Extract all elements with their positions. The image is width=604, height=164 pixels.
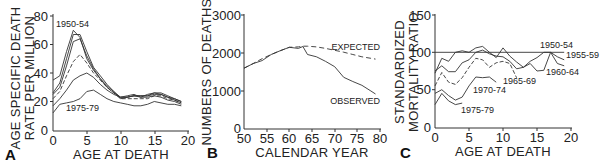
x-tick-label: 10 — [114, 133, 128, 148]
panel-a-x-ticks: 0 5 10 15 20 — [49, 131, 195, 148]
x-tick-label: 55 — [260, 131, 274, 146]
panel-c-lines — [435, 46, 564, 104]
x-tick-label: 15 — [148, 133, 162, 148]
x-tick-label: 5 — [465, 130, 472, 145]
annotation-1970-74: 1970-74 — [473, 85, 506, 95]
y-tick-label: 3000 — [212, 8, 241, 23]
annotation-1965-69: 1965-69 — [503, 76, 536, 86]
series-line — [53, 73, 181, 106]
x-tick-label: 75 — [350, 131, 364, 146]
annotation-1975-79: 1975-79 — [66, 103, 99, 113]
y-tick-label: 2000 — [212, 46, 241, 61]
series-line — [435, 46, 564, 73]
annotation-1955-59: 1955-59 — [566, 50, 599, 60]
x-tick-label: 20 — [564, 130, 578, 145]
panel-b: 0 1000 2000 3000 50 55 60 65 70 75 80 CA… — [199, 0, 387, 161]
panel-c-x-ticks: 0 5 10 15 20 — [431, 128, 578, 145]
x-tick-label: 65 — [305, 131, 319, 146]
panel-c-label: C — [400, 144, 411, 161]
y-tick-label: 0 — [424, 120, 431, 135]
x-tick-label: 70 — [328, 131, 342, 146]
panel-a-y-label-line1: AGE SPECIFIC DEATH — [8, 6, 23, 149]
panel-a-lines — [53, 30, 181, 113]
x-tick-label: 60 — [282, 131, 296, 146]
annotation-expected: EXPECTED — [331, 42, 380, 52]
x-tick-label: 15 — [530, 130, 544, 145]
x-tick-label: 0 — [49, 133, 56, 148]
panel-a-x-label: AGE AT DEATH — [73, 147, 169, 162]
panel-c: 0 50 100 150 0 5 10 15 20 AGE AT DEATH S… — [392, 8, 599, 161]
panel-a-y-label-line2: RATE PER MILLION — [22, 16, 37, 140]
x-tick-label: 20 — [181, 133, 195, 148]
panel-a: 0 20 40 60 80 0 5 10 15 20 AGE AT DEATH … — [5, 6, 195, 163]
annotation-1950-54: 1950-54 — [56, 19, 89, 29]
panel-b-x-ticks: 50 55 60 65 70 75 80 — [237, 129, 387, 146]
panel-b-label: B — [207, 144, 218, 161]
panel-b-x-label: CALENDAR YEAR — [255, 145, 368, 160]
panel-b-lines — [244, 46, 376, 94]
y-tick-label: 1000 — [212, 84, 241, 99]
panel-c-y-label-line2: MORTALITY RATIO — [406, 12, 421, 132]
x-tick-label: 0 — [431, 130, 438, 145]
panel-c-y-label-line1: STANDARDIZED — [392, 20, 407, 124]
annotation-1950-54: 1950-54 — [540, 40, 573, 50]
x-tick-label: 50 — [237, 131, 251, 146]
series-line — [53, 30, 181, 101]
panel-c-x-label: AGE AT DEATH — [455, 144, 551, 159]
panel-b-y-label: NUMBERS OF DEATHS — [199, 0, 214, 146]
figure: 0 20 40 60 80 0 5 10 15 20 AGE AT DEATH … — [0, 0, 604, 164]
annotation-1960-64: 1960-64 — [546, 67, 579, 77]
x-tick-label: 80 — [373, 131, 387, 146]
annotation-observed: OBSERVED — [330, 96, 380, 106]
x-tick-label: 5 — [83, 133, 90, 148]
x-tick-label: 10 — [496, 130, 510, 145]
panel-a-label: A — [5, 146, 16, 163]
panel-b-y-ticks: 0 1000 2000 3000 — [212, 8, 244, 136]
series-line — [244, 47, 376, 95]
y-tick-label: 0 — [41, 123, 48, 138]
annotation-1975-79: 1975-79 — [461, 105, 494, 115]
